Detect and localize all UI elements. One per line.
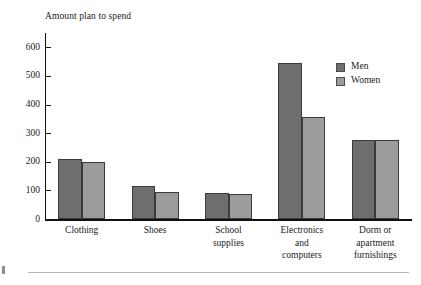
bar-group bbox=[278, 33, 325, 219]
y-tick-label: 600 bbox=[26, 43, 40, 53]
legend-item-women: Women bbox=[336, 74, 380, 88]
y-tick-label: 300 bbox=[26, 129, 40, 139]
y-tick-label: 400 bbox=[26, 100, 40, 110]
bar-chart-figure: Amount plan to spend 0100200300400500600… bbox=[0, 0, 421, 285]
bar-men bbox=[278, 63, 302, 219]
bar-group bbox=[132, 33, 179, 219]
chart-axis-title: Amount plan to spend bbox=[45, 11, 131, 21]
y-tick-label: 200 bbox=[26, 158, 40, 168]
bar-men bbox=[352, 140, 376, 219]
y-tick-label: 500 bbox=[26, 72, 40, 82]
x-axis-line bbox=[45, 219, 412, 221]
category-label-line: apartment bbox=[339, 237, 412, 250]
category-label-line: and bbox=[265, 237, 338, 250]
category-labels: ClothingShoesSchoolsuppliesElectronicsan… bbox=[45, 224, 412, 276]
legend-swatch-icon bbox=[336, 77, 345, 86]
category-label-line: Electronics bbox=[265, 224, 338, 237]
bar-women bbox=[375, 140, 399, 219]
legend-swatch-icon bbox=[336, 63, 345, 72]
bar-men bbox=[58, 159, 82, 219]
bar-group bbox=[205, 33, 252, 219]
y-tick-label: 0 bbox=[35, 215, 40, 225]
category-label: Clothing bbox=[45, 224, 118, 237]
legend-label: Men bbox=[351, 62, 368, 72]
chart-legend: MenWomen bbox=[336, 60, 380, 88]
bar-women bbox=[229, 194, 253, 219]
footer-divider bbox=[28, 272, 409, 273]
category-label: Dorm orapartmentfurnishings bbox=[339, 224, 412, 262]
category-label: Schoolsupplies bbox=[192, 224, 265, 249]
category-label-line: supplies bbox=[192, 237, 265, 250]
legend-item-men: Men bbox=[336, 60, 380, 74]
bar-women bbox=[155, 192, 179, 219]
category-label-line: Shoes bbox=[118, 224, 191, 237]
y-tick-label: 100 bbox=[26, 186, 40, 196]
category-label: Shoes bbox=[118, 224, 191, 237]
bar-men bbox=[205, 193, 229, 219]
y-tick-mark bbox=[45, 219, 51, 220]
bar-women bbox=[82, 162, 106, 219]
category-label: Electronicsandcomputers bbox=[265, 224, 338, 262]
category-label-line: computers bbox=[265, 249, 338, 262]
bar-men bbox=[132, 186, 156, 219]
legend-label: Women bbox=[351, 76, 380, 86]
category-label-line: Clothing bbox=[45, 224, 118, 237]
category-label-line: Dorm or bbox=[339, 224, 412, 237]
footer-marker bbox=[2, 266, 5, 274]
category-label-line: School bbox=[192, 224, 265, 237]
bar-group bbox=[58, 33, 105, 219]
bar-women bbox=[302, 117, 326, 219]
category-label-line: furnishings bbox=[339, 249, 412, 262]
